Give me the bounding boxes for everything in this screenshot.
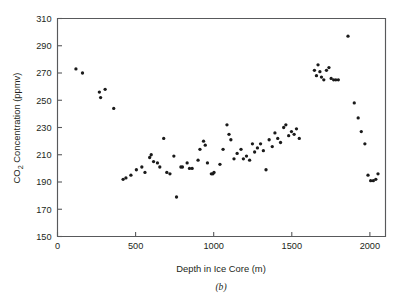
data-point: [259, 142, 262, 145]
data-point: [245, 154, 248, 157]
data-point: [168, 172, 171, 175]
data-point: [227, 133, 230, 136]
data-point: [181, 165, 184, 168]
data-point: [185, 161, 188, 164]
data-point: [221, 148, 224, 151]
y-tick-label: 270: [36, 68, 51, 78]
data-point: [156, 161, 159, 164]
data-point: [366, 174, 369, 177]
data-point: [140, 165, 143, 168]
y-tick-label: 230: [36, 123, 51, 133]
data-point: [353, 101, 356, 104]
data-point: [264, 168, 267, 171]
data-point: [190, 167, 193, 170]
x-tick-label: 0: [55, 241, 60, 251]
data-point: [320, 75, 323, 78]
data-point: [152, 160, 155, 163]
data-point: [322, 78, 325, 81]
data-point: [112, 107, 115, 110]
data-point: [103, 88, 106, 91]
data-point: [325, 69, 328, 72]
x-tick-label: 1500: [282, 241, 302, 251]
data-point: [196, 159, 199, 162]
figure-container: 150170190210230250270290310 050010001500…: [0, 0, 408, 308]
data-point: [360, 130, 363, 133]
data-point: [150, 153, 153, 156]
data-point: [99, 96, 102, 99]
data-point: [74, 67, 77, 70]
data-point: [158, 165, 161, 168]
data-point: [121, 178, 124, 181]
data-point: [218, 163, 221, 166]
data-point: [248, 159, 251, 162]
data-point: [376, 172, 379, 175]
data-point: [162, 137, 165, 140]
data-point: [124, 176, 127, 179]
data-point: [242, 157, 245, 160]
data-point: [273, 131, 276, 134]
data-point: [81, 71, 84, 74]
data-point: [276, 137, 279, 140]
data-point: [337, 78, 340, 81]
data-point: [318, 70, 321, 73]
y-tick-label: 210: [36, 150, 51, 160]
data-point: [271, 145, 274, 148]
x-tick-label: 2000: [360, 241, 380, 251]
y-tick-label: 190: [36, 177, 51, 187]
data-point: [253, 150, 256, 153]
data-point: [262, 149, 265, 152]
data-point: [235, 152, 238, 155]
figure-caption: (b): [215, 281, 226, 293]
x-tick-label: 1000: [203, 241, 223, 251]
data-point: [232, 157, 235, 160]
data-point: [229, 138, 232, 141]
data-point: [313, 69, 316, 72]
data-point: [295, 127, 298, 130]
y-tick-label: 310: [36, 14, 51, 24]
data-point: [129, 174, 132, 177]
data-point: [143, 171, 146, 174]
y-tick-label: 290: [36, 41, 51, 51]
data-point: [175, 195, 178, 198]
data-point: [206, 161, 209, 164]
data-point: [251, 142, 254, 145]
data-point: [172, 154, 175, 157]
data-point: [282, 126, 285, 129]
data-point: [363, 142, 366, 145]
data-point: [239, 148, 242, 151]
data-point: [298, 137, 301, 140]
data-point: [287, 134, 290, 137]
x-axis-title: Depth in Ice Core (m): [176, 263, 266, 274]
data-point: [204, 144, 207, 147]
x-tick-label: 500: [128, 241, 143, 251]
data-point: [327, 66, 330, 69]
data-point: [346, 35, 349, 38]
y-tick-label: 150: [36, 232, 51, 242]
data-point: [212, 171, 215, 174]
y-tick-label: 250: [36, 96, 51, 106]
data-point: [267, 138, 270, 141]
data-point: [315, 74, 318, 77]
data-point: [165, 171, 168, 174]
data-point: [292, 133, 295, 136]
data-point: [98, 90, 101, 93]
data-point: [290, 130, 293, 133]
data-point: [316, 63, 319, 66]
data-point: [202, 139, 205, 142]
data-point: [279, 141, 282, 144]
data-point: [256, 146, 259, 149]
co2-depth-scatter-plot: 150170190210230250270290310 050010001500…: [0, 0, 408, 308]
data-point: [284, 123, 287, 126]
data-point: [198, 148, 201, 151]
y-tick-label: 170: [36, 205, 51, 215]
data-point: [135, 168, 138, 171]
data-point: [357, 116, 360, 119]
data-point: [225, 123, 228, 126]
data-point: [374, 178, 377, 181]
